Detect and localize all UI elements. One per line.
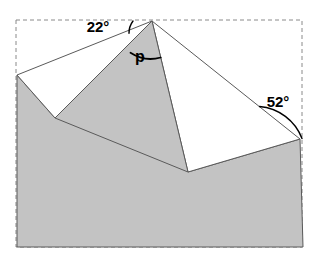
geometry-diagram: 22° p 52°: [0, 0, 315, 257]
angle-label-52-degrees: 52°: [267, 93, 290, 110]
angle-label-p: p: [135, 48, 145, 65]
angle-label-22-degrees: 22°: [87, 18, 110, 35]
geometry-canvas: 22° p 52°: [0, 0, 315, 257]
